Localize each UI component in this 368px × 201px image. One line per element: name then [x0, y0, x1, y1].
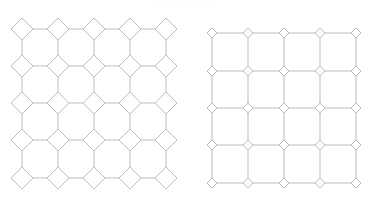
- diamond-node: [279, 66, 289, 76]
- diamond-node: [279, 28, 289, 38]
- diamond-node: [155, 92, 177, 114]
- diamond-node: [243, 178, 253, 188]
- diamond-node: [315, 178, 325, 188]
- diamond-node: [155, 55, 177, 77]
- diamond-node: [207, 178, 217, 188]
- diamond-node: [315, 66, 325, 76]
- diamond-node: [207, 66, 217, 76]
- diamond-node: [83, 55, 105, 77]
- diamond-node: [83, 129, 105, 151]
- diamond-node: [315, 28, 325, 38]
- diamond-node: [119, 55, 141, 77]
- diamond-node: [207, 103, 217, 113]
- diamond-node: [207, 28, 217, 38]
- left-octagon-tiling: [11, 18, 177, 189]
- diamond-node: [243, 140, 253, 150]
- diamond-node: [351, 28, 361, 38]
- diamond-node: [155, 18, 177, 40]
- diamond-node: [47, 167, 69, 189]
- diamond-node: [11, 129, 33, 151]
- diamond-node: [243, 66, 253, 76]
- diamond-node: [243, 103, 253, 113]
- diamond-node: [279, 103, 289, 113]
- diamond-node: [315, 103, 325, 113]
- diamond-node: [83, 18, 105, 40]
- diamond-node: [155, 167, 177, 189]
- bottom-caption-cutoff: · · ·: [45, 195, 62, 201]
- diamond-node: [47, 18, 69, 40]
- diamond-node: [83, 92, 105, 114]
- diamond-node: [119, 18, 141, 40]
- diamond-node: [155, 129, 177, 151]
- diamond-node: [11, 92, 33, 114]
- diamond-node: [11, 55, 33, 77]
- diamond-node: [11, 167, 33, 189]
- diamond-node: [47, 92, 69, 114]
- diamond-node: [47, 55, 69, 77]
- diamond-node: [243, 28, 253, 38]
- diamond-node: [351, 103, 361, 113]
- diamond-node: [351, 178, 361, 188]
- diamond-node: [279, 140, 289, 150]
- diagram-canvas: [0, 0, 368, 201]
- diamond-node: [351, 140, 361, 150]
- diamond-node: [315, 140, 325, 150]
- diamond-node: [119, 92, 141, 114]
- diamond-node: [119, 129, 141, 151]
- right-square-grid: [207, 28, 361, 188]
- diamond-node: [279, 178, 289, 188]
- diamond-node: [83, 167, 105, 189]
- diamond-node: [11, 18, 33, 40]
- diamond-node: [119, 167, 141, 189]
- diamond-node: [351, 66, 361, 76]
- diamond-node: [47, 129, 69, 151]
- diamond-node: [207, 140, 217, 150]
